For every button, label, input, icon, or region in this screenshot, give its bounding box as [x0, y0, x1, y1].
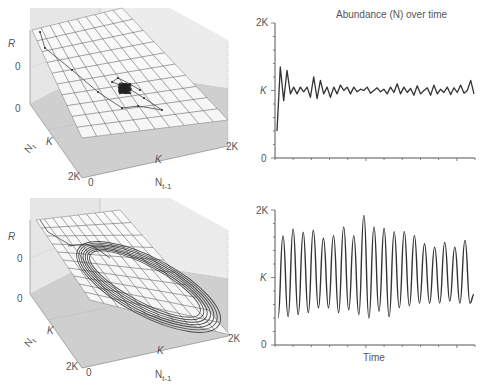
z-label-top: R [8, 38, 15, 49]
x-label-bottom: Nt-1 [155, 369, 172, 383]
y-tick-2k-top: 2K [68, 171, 81, 182]
timeseries-bottom [271, 210, 475, 348]
ytick-k-top: K [260, 85, 268, 96]
y-label-bottom: Nt [22, 334, 38, 349]
surface-plot-bottom [30, 198, 233, 368]
ytick-2k-top: 2K [256, 17, 269, 28]
ytick-0-top: 0 [261, 153, 267, 164]
surface-plot-top [30, 8, 228, 178]
z-tick-0a-bottom: 0 [17, 253, 23, 264]
z-tick-0a-top: 0 [15, 61, 21, 72]
ytick-2k-bottom: 2K [256, 205, 269, 216]
figure-canvas: Abundance (N) over time 2K K 0 2K K 0 Ti… [0, 0, 484, 388]
y-label-top: Nt [22, 140, 38, 155]
x-label-top: Nt-1 [155, 177, 172, 191]
y-tick-k-top: K [46, 136, 54, 147]
x-tick-0-bottom: 0 [86, 367, 92, 378]
z-tick-0b-bottom: 0 [17, 293, 23, 304]
x-tick-2k-bottom: 2K [228, 333, 241, 344]
ytick-0-bottom: 0 [261, 339, 267, 350]
timeseries-top [271, 23, 475, 161]
y-tick-2k-bottom: 2K [66, 361, 79, 372]
x-axis-label: Time [363, 352, 385, 363]
ytick-k-bottom: K [260, 272, 268, 283]
z-label-bottom: R [8, 231, 15, 242]
x-tick-2k-top: 2K [226, 141, 239, 152]
x-tick-0-top: 0 [88, 177, 94, 188]
z-tick-0b-top: 0 [15, 103, 21, 114]
chart-title: Abundance (N) over time [336, 9, 448, 20]
